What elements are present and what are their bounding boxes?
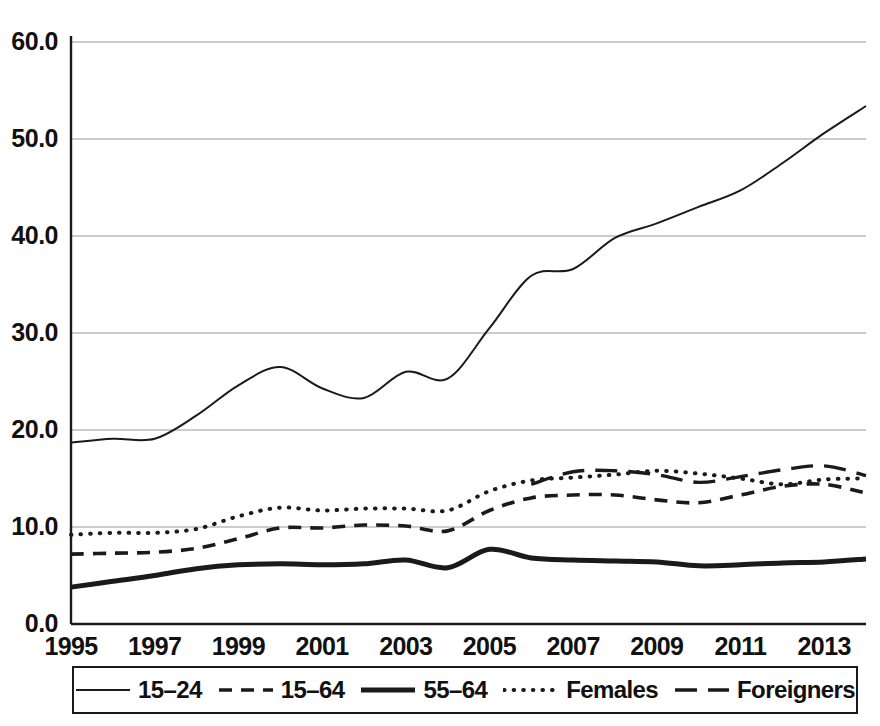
legend-line-swatch-icon <box>360 683 416 697</box>
y-tick-label: 50.0 <box>0 126 58 151</box>
series-line-15-24 <box>71 106 866 443</box>
legend-item-foreigners[interactable]: Foreigners <box>674 676 855 704</box>
x-tick-2011: 2011 <box>700 634 780 659</box>
legend-item-55-64[interactable]: 55–64 <box>360 676 503 704</box>
legend-item-label: 55–64 <box>423 676 487 704</box>
x-tick-2003: 2003 <box>366 634 446 659</box>
legend-item-label: Females <box>566 676 658 704</box>
y-tick-60-0: 60.0 <box>0 29 58 54</box>
x-tick-2005: 2005 <box>449 634 529 659</box>
y-tick-20-0: 20.0 <box>0 417 58 442</box>
y-tick-label: 30.0 <box>0 320 58 345</box>
x-tick-1997: 1997 <box>115 634 195 659</box>
legend-item-15-64[interactable]: 15–64 <box>218 676 361 704</box>
legend-item-label: Foreigners <box>737 676 855 704</box>
x-tick-2001: 2001 <box>282 634 362 659</box>
x-tick-1995: 1995 <box>31 634 111 659</box>
y-tick-label: 60.0 <box>0 29 58 54</box>
legend-item-females[interactable]: Females <box>503 676 674 704</box>
line-chart-plot <box>0 0 880 726</box>
y-tick-30-0: 30.0 <box>0 320 58 345</box>
y-tick-40-0: 40.0 <box>0 223 58 248</box>
y-tick-50-0: 50.0 <box>0 126 58 151</box>
y-tick-label: 20.0 <box>0 417 58 442</box>
series-line-55-64 <box>71 549 866 587</box>
legend-item-15-24[interactable]: 15–24 <box>75 676 218 704</box>
legend-item-label: 15–64 <box>281 676 345 704</box>
legend-line-swatch-icon <box>503 683 559 697</box>
x-tick-2009: 2009 <box>617 634 697 659</box>
chart-container: 0.010.020.030.040.050.060.0 199519971999… <box>0 0 880 726</box>
y-tick-label: 40.0 <box>0 223 58 248</box>
legend-item-label: 15–24 <box>138 676 202 704</box>
y-tick-10-0: 10.0 <box>0 514 58 539</box>
series-line-females <box>71 471 866 535</box>
legend-line-swatch-icon <box>75 683 131 697</box>
x-tick-2013: 2013 <box>784 634 864 659</box>
legend-line-swatch-icon <box>218 683 274 697</box>
series-line-15-64 <box>71 484 866 554</box>
series-line-foreigners <box>531 466 866 485</box>
chart-legend: 15–2415–6455–64FemalesForeigners <box>72 666 858 714</box>
x-tick-1999: 1999 <box>198 634 278 659</box>
y-tick-label: 10.0 <box>0 514 58 539</box>
legend-line-swatch-icon <box>674 683 730 697</box>
x-tick-2007: 2007 <box>533 634 613 659</box>
